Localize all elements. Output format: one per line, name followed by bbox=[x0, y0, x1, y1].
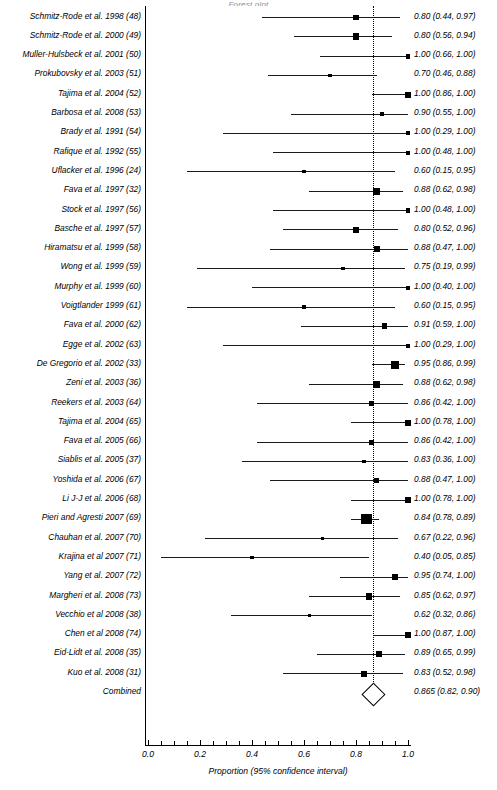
effect-estimate-marker bbox=[353, 15, 358, 20]
study-label: Chauhan et al. 2007 (70) bbox=[0, 533, 141, 542]
confidence-interval-whisker bbox=[252, 287, 408, 288]
ci-value-text: 0.90 (0.55, 1.00) bbox=[414, 108, 497, 117]
confidence-interval-whisker bbox=[197, 268, 405, 269]
ci-value-text: 0.84 (0.78, 0.89) bbox=[414, 513, 497, 522]
confidence-interval-whisker bbox=[372, 364, 406, 365]
x-tick-minor bbox=[382, 741, 383, 745]
effect-estimate-marker bbox=[362, 460, 366, 464]
effect-estimate-marker bbox=[406, 131, 410, 135]
x-tick-minor bbox=[278, 741, 279, 745]
study-label: Rafique et al. 1992 (55) bbox=[0, 147, 141, 156]
study-label: Prokubovsky et al. 2003 (51) bbox=[0, 69, 141, 78]
ci-value-text: 1.00 (0.87, 1.00) bbox=[414, 629, 497, 638]
ci-value-text: 1.00 (0.78, 1.00) bbox=[414, 494, 497, 503]
study-label: Kuo et al. 2008 (31) bbox=[0, 668, 141, 677]
study-label: Tajima et al. 2004 (65) bbox=[0, 417, 141, 426]
confidence-interval-whisker bbox=[294, 36, 393, 37]
study-label: Wong et al. 1999 (59) bbox=[0, 262, 141, 271]
summary-label: Combined bbox=[0, 687, 141, 696]
confidence-interval-whisker bbox=[262, 17, 400, 18]
ci-value-text: 0.62 (0.32, 0.86) bbox=[414, 610, 497, 619]
effect-estimate-marker bbox=[405, 497, 411, 503]
ci-value-text: 0.88 (0.62, 0.98) bbox=[414, 185, 497, 194]
x-tick-minor bbox=[317, 741, 318, 745]
confidence-interval-whisker bbox=[372, 94, 408, 95]
study-label: Reekers et al. 2003 (64) bbox=[0, 398, 141, 407]
x-tick-minor bbox=[265, 741, 266, 745]
confidence-interval-whisker bbox=[231, 615, 371, 616]
x-tick-label: 0.4 bbox=[232, 749, 272, 759]
study-label: Siablis et al. 2005 (37) bbox=[0, 455, 141, 464]
x-tick-minor bbox=[187, 741, 188, 745]
effect-estimate-marker bbox=[405, 632, 411, 638]
effect-estimate-marker bbox=[302, 170, 305, 173]
ci-value-text: 0.91 (0.59, 1.00) bbox=[414, 320, 497, 329]
x-tick-minor bbox=[343, 741, 344, 745]
effect-estimate-marker bbox=[369, 440, 374, 445]
effect-estimate-marker bbox=[321, 537, 324, 540]
x-axis-label: Proportion (95% confidence interval) bbox=[145, 766, 411, 776]
confidence-interval-whisker bbox=[309, 191, 403, 192]
study-label: Yang et al. 2007 (72) bbox=[0, 571, 141, 580]
study-label: Fava et al. 2005 (66) bbox=[0, 436, 141, 445]
ci-value-text: 1.00 (0.48, 1.00) bbox=[414, 205, 497, 214]
effect-estimate-marker bbox=[405, 92, 411, 98]
confidence-interval-whisker bbox=[223, 133, 408, 134]
summary-diamond bbox=[362, 682, 386, 706]
study-label: Basche et al. 1997 (57) bbox=[0, 224, 141, 233]
ci-value-text: 0.88 (0.47, 1.00) bbox=[414, 475, 497, 484]
x-tick-minor bbox=[291, 741, 292, 745]
confidence-interval-whisker bbox=[351, 422, 408, 423]
study-label: Zeni et al. 2003 (36) bbox=[0, 378, 141, 387]
study-label: De Gregorio et al. 2002 (33) bbox=[0, 359, 141, 368]
study-label: Chen et al 2008 (74) bbox=[0, 629, 141, 638]
x-tick-label: 0.0 bbox=[128, 749, 168, 759]
effect-estimate-marker bbox=[361, 514, 371, 524]
x-tick-major bbox=[200, 740, 201, 745]
study-label: Stock et al. 1997 (56) bbox=[0, 205, 141, 214]
ci-value-text: 1.00 (0.29, 1.00) bbox=[414, 127, 497, 136]
x-tick-minor bbox=[330, 741, 331, 745]
ci-value-text: 0.88 (0.47, 1.00) bbox=[414, 243, 497, 252]
ci-value-text: 0.89 (0.65, 0.99) bbox=[414, 648, 497, 657]
ci-value-text: 0.60 (0.15, 0.95) bbox=[414, 166, 497, 175]
effect-estimate-marker bbox=[374, 246, 379, 251]
x-tick-label: 0.2 bbox=[180, 749, 220, 759]
study-label: Fava et al. 2000 (62) bbox=[0, 320, 141, 329]
confidence-interval-whisker bbox=[301, 326, 408, 327]
ci-value-text: 0.80 (0.56, 0.94) bbox=[414, 31, 497, 40]
summary-ci-value-text: 0.865 (0.82, 0.90) bbox=[414, 687, 497, 696]
ci-value-text: 0.83 (0.36, 1.00) bbox=[414, 455, 497, 464]
study-label: Fava et al. 1997 (32) bbox=[0, 185, 141, 194]
ci-value-text: 1.00 (0.48, 1.00) bbox=[414, 147, 497, 156]
ci-value-text: 0.85 (0.62, 0.97) bbox=[414, 591, 497, 600]
confidence-interval-whisker bbox=[268, 75, 377, 76]
confidence-interval-whisker bbox=[223, 345, 408, 346]
ci-value-text: 0.80 (0.52, 0.96) bbox=[414, 224, 497, 233]
ci-values-column: 0.80 (0.44, 0.97)0.80 (0.56, 0.94)1.00 (… bbox=[414, 0, 497, 760]
ci-value-text: 0.70 (0.46, 0.88) bbox=[414, 69, 497, 78]
study-labels-column: Schmitz-Rode et al. 1998 (48)Schmitz-Rod… bbox=[0, 0, 141, 740]
effect-estimate-marker bbox=[353, 33, 360, 40]
ci-value-text: 0.75 (0.19, 0.99) bbox=[414, 262, 497, 271]
study-label: Schmitz-Rode et al. 2000 (49) bbox=[0, 31, 141, 40]
x-tick-minor bbox=[239, 741, 240, 745]
x-tick-minor bbox=[174, 741, 175, 745]
confidence-interval-whisker bbox=[187, 171, 395, 172]
effect-estimate-marker bbox=[250, 556, 253, 559]
effect-estimate-marker bbox=[380, 112, 385, 117]
study-label: Barbosa et al. 2008 (53) bbox=[0, 108, 141, 117]
confidence-interval-whisker bbox=[270, 480, 408, 481]
study-label: Tajima et al. 2004 (52) bbox=[0, 89, 141, 98]
ci-value-text: 1.00 (0.66, 1.00) bbox=[414, 50, 497, 59]
effect-estimate-marker bbox=[405, 420, 411, 426]
effect-estimate-marker bbox=[373, 381, 380, 388]
study-label: Voigtlander 1999 (61) bbox=[0, 301, 141, 310]
x-tick-label: 0.8 bbox=[336, 749, 376, 759]
x-tick-major bbox=[356, 740, 357, 745]
ci-value-text: 0.80 (0.44, 0.97) bbox=[414, 12, 497, 21]
ci-value-text: 0.86 (0.42, 1.00) bbox=[414, 398, 497, 407]
confidence-interval-whisker bbox=[273, 210, 408, 211]
confidence-interval-whisker bbox=[205, 538, 397, 539]
ci-value-text: 0.40 (0.05, 0.85) bbox=[414, 552, 497, 561]
